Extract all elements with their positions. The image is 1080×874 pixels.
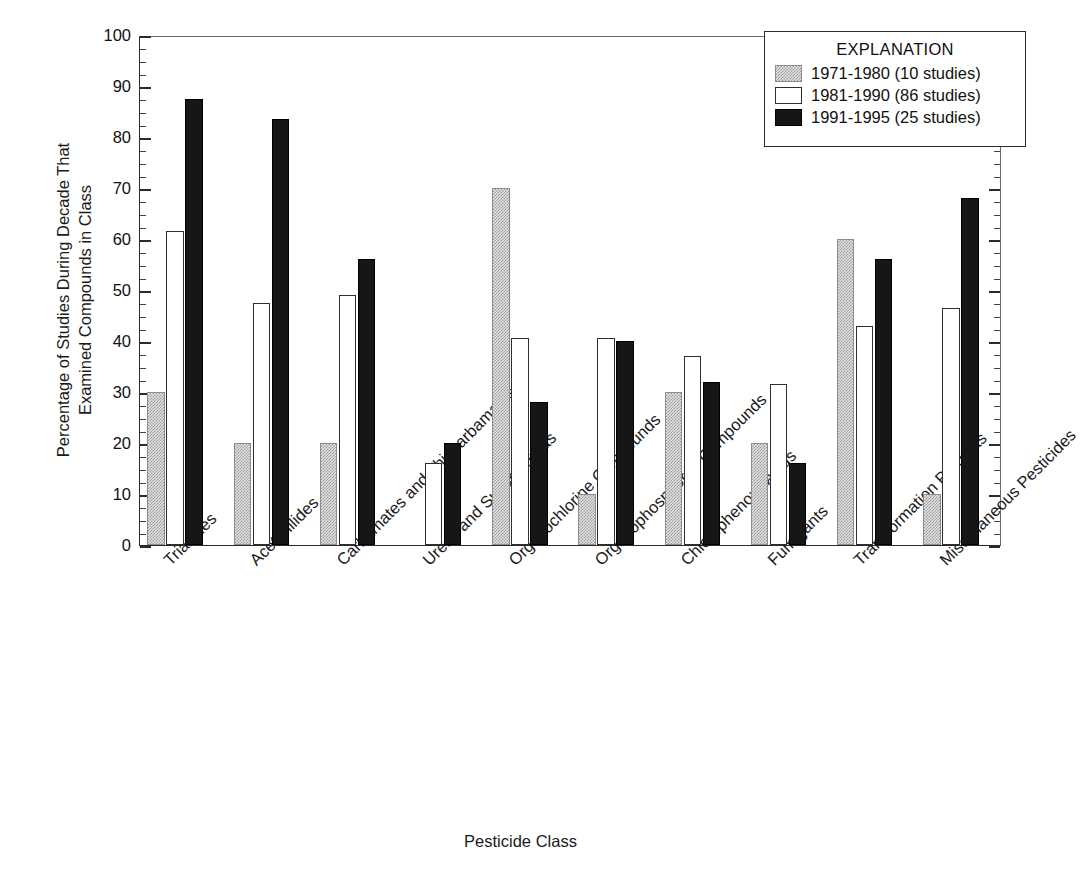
y-tick-minor [140, 253, 146, 254]
y-tick-minor-right [994, 457, 1000, 458]
y-tick-minor-right [994, 266, 1000, 267]
y-tick-minor [140, 304, 146, 305]
y-tick-minor-right [994, 317, 1000, 318]
y-tick-label: 40 [79, 332, 131, 351]
y-tick-minor-right [994, 534, 1000, 535]
bar [837, 239, 855, 545]
legend-title: EXPLANATION [765, 40, 1025, 59]
y-tick-minor [140, 164, 146, 165]
y-tick-major-right [989, 189, 1000, 191]
legend-label: 1971-1980 (10 studies) [811, 64, 981, 83]
y-tick-major-right [989, 342, 1000, 344]
y-tick-minor [140, 49, 146, 50]
bar [770, 384, 788, 545]
legend-swatch-icon [775, 109, 802, 126]
y-tick-minor [140, 457, 146, 458]
y-tick-label: 10 [79, 485, 131, 504]
legend-entries: 1971-1980 (10 studies)1981-1990 (86 stud… [765, 64, 1025, 127]
bar [425, 463, 443, 545]
y-tick-label: 50 [79, 281, 131, 300]
bar [597, 338, 615, 545]
legend-entry: 1971-1980 (10 studies) [775, 64, 1025, 83]
y-tick-label: 100 [79, 26, 131, 45]
y-tick-minor [140, 100, 146, 101]
bar [751, 443, 769, 545]
y-tick-minor-right [994, 279, 1000, 280]
y-tick-major [140, 138, 151, 140]
bar [444, 443, 462, 545]
y-tick-minor-right [994, 470, 1000, 471]
y-tick-minor-right [994, 419, 1000, 420]
bar [875, 259, 893, 545]
y-tick-major [140, 240, 151, 242]
y-tick-label: 30 [79, 383, 131, 402]
y-tick-minor [140, 330, 146, 331]
bar [530, 402, 548, 545]
bar [166, 231, 184, 545]
y-tick-major [140, 291, 151, 293]
y-tick-major [140, 189, 151, 191]
y-tick-minor [140, 521, 146, 522]
bar [665, 392, 683, 545]
y-tick-minor [140, 368, 146, 369]
y-tick-label: 90 [79, 77, 131, 96]
y-tick-minor [140, 126, 146, 127]
y-tick-minor-right [994, 215, 1000, 216]
y-tick-minor-right [994, 355, 1000, 356]
y-tick-minor-right [994, 228, 1000, 229]
y-tick-minor-right [994, 304, 1000, 305]
y-tick-major-right [989, 393, 1000, 395]
bar [358, 259, 376, 545]
y-tick-minor-right [994, 368, 1000, 369]
y-tick-label: 60 [79, 230, 131, 249]
bar [147, 392, 165, 545]
y-tick-major-right [989, 240, 1000, 242]
y-tick-minor [140, 62, 146, 63]
y-tick-minor-right [994, 381, 1000, 382]
y-tick-major-right [989, 546, 1000, 548]
legend: EXPLANATION 1971-1980 (10 studies)1981-1… [764, 31, 1026, 147]
y-tick-minor-right [994, 432, 1000, 433]
legend-swatch-icon [775, 65, 802, 82]
bar [185, 99, 203, 545]
y-tick-minor [140, 432, 146, 433]
y-tick-minor [140, 419, 146, 420]
bar [856, 326, 874, 545]
legend-swatch-icon [775, 87, 802, 104]
y-tick-minor [140, 215, 146, 216]
y-tick-minor [140, 381, 146, 382]
y-tick-major-right [989, 444, 1000, 446]
bar [339, 295, 357, 545]
y-tick-minor-right [994, 406, 1000, 407]
bar [703, 382, 721, 545]
bar [578, 494, 596, 545]
y-tick-minor [140, 266, 146, 267]
y-tick-minor-right [994, 202, 1000, 203]
y-tick-minor-right [994, 330, 1000, 331]
y-tick-minor [140, 406, 146, 407]
y-tick-minor-right [994, 164, 1000, 165]
y-tick-major [140, 546, 151, 548]
y-tick-minor [140, 317, 146, 318]
bar [511, 338, 529, 545]
y-tick-minor [140, 279, 146, 280]
y-tick-minor [140, 75, 146, 76]
y-tick-minor [140, 202, 146, 203]
y-tick-minor [140, 151, 146, 152]
bar [684, 356, 702, 545]
y-tick-minor-right [994, 253, 1000, 254]
legend-label: 1981-1990 (86 studies) [811, 86, 981, 105]
bar [923, 494, 941, 545]
y-tick-minor [140, 355, 146, 356]
y-tick-minor [140, 508, 146, 509]
bar [961, 198, 979, 545]
y-tick-minor-right [994, 177, 1000, 178]
bar [616, 341, 634, 545]
y-tick-minor [140, 228, 146, 229]
bar [492, 188, 510, 545]
y-tick-major [140, 342, 151, 344]
bar [789, 463, 807, 545]
y-tick-label: 70 [79, 179, 131, 198]
y-tick-major [140, 36, 151, 38]
